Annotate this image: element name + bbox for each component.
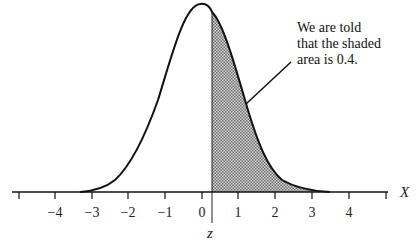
axis-ticks	[19, 192, 386, 199]
tick-label: 4	[346, 205, 353, 220]
tick-label: −2	[121, 205, 136, 220]
annotation-line-2: that the shaded	[297, 36, 381, 52]
tick-label: 0	[199, 205, 206, 220]
tick-label: −3	[85, 205, 100, 220]
tick-label: 3	[309, 205, 316, 220]
tick-label: 1	[235, 205, 242, 220]
annotation-line-1: We are told	[297, 20, 381, 36]
annotation-line-3: area is 0.4.	[297, 52, 381, 68]
tick-label: −1	[158, 205, 173, 220]
annotation-leader-line	[246, 62, 291, 104]
tick-label: 2	[272, 205, 279, 220]
z-label: z	[206, 225, 213, 241]
normal-curve	[80, 4, 330, 192]
annotation-text: We are told that the shaded area is 0.4.	[297, 20, 381, 68]
tick-label: −4	[48, 205, 63, 220]
x-axis-label: X	[399, 184, 410, 200]
